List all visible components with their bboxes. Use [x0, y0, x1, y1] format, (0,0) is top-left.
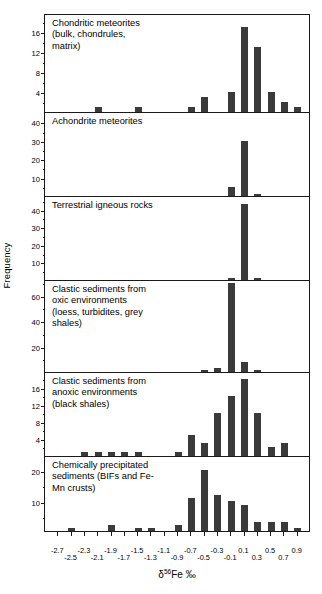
y-tick-major	[41, 423, 45, 424]
x-tick-label: -0.9	[171, 553, 184, 562]
y-tick-label: 30	[32, 137, 40, 146]
x-tick	[97, 532, 98, 536]
y-axis-title: Frequency	[0, 0, 14, 530]
x-tick	[124, 532, 125, 536]
histogram-bar	[214, 413, 221, 456]
panel-caption: Clastic sediments from anoxic environmen…	[52, 376, 146, 410]
y-tick-label: 20	[32, 343, 40, 352]
x-tick	[297, 532, 298, 536]
y-tick-major	[41, 472, 45, 473]
y-tick-major	[41, 389, 45, 390]
y-tick-major	[41, 246, 45, 247]
histogram-bar	[268, 447, 275, 456]
x-axis: -2.7-2.5-2.3-2.1-1.9-1.7-1.5-1.3-1.1-0.9…	[44, 532, 310, 572]
y-tick-label: 10	[32, 498, 40, 507]
y-tick-major	[41, 179, 45, 180]
panel-achondrite-meteorites: Achondrite meteorites10203040	[44, 112, 310, 196]
y-tick-label: 8	[36, 69, 40, 78]
x-tick-label: -1.3	[144, 553, 157, 562]
histogram-bar	[281, 443, 288, 456]
x-tick-label: 0.3	[252, 553, 262, 562]
x-tick-label: -2.7	[51, 546, 64, 555]
x-axis-title: δ56Fe ‰	[44, 568, 310, 580]
y-tick-label: 40	[32, 206, 40, 215]
x-tick	[177, 532, 178, 536]
histogram-bar	[228, 501, 235, 531]
y-tick-label: 20	[32, 468, 40, 477]
x-tick-label: 0.1	[238, 546, 248, 555]
x-tick	[270, 532, 271, 536]
y-tick-minor	[43, 133, 46, 134]
histogram-bar	[254, 47, 261, 112]
histogram-bar	[201, 470, 208, 531]
x-axis-title-element: Fe ‰	[171, 569, 195, 580]
histogram-bar	[241, 362, 248, 372]
histogram-bar	[148, 528, 155, 531]
histogram-bar	[254, 413, 261, 456]
y-tick-minor	[43, 335, 46, 336]
x-tick-label: -1.9	[104, 546, 117, 555]
y-tick-major	[41, 53, 45, 54]
y-tick-label: 16	[32, 384, 40, 393]
x-tick-label: 0.5	[265, 546, 275, 555]
x-tick-label: -1.5	[131, 546, 144, 555]
histogram-bar	[241, 27, 248, 112]
histogram-bar	[281, 522, 288, 531]
x-tick	[217, 532, 218, 536]
y-tick-minor	[43, 431, 46, 432]
histogram-bar	[228, 187, 235, 196]
y-tick-minor	[43, 169, 46, 170]
histogram-bar	[268, 92, 275, 112]
x-tick	[71, 532, 72, 536]
y-tick-minor	[43, 202, 46, 203]
histogram-bar	[108, 525, 115, 531]
panel-stack: Chondritic meteorites (bulk, chondrules,…	[44, 14, 310, 532]
x-tick	[230, 532, 231, 536]
y-tick-major	[41, 160, 45, 161]
panel-clastic-sediments-oxic: Clastic sediments from oxic environments…	[44, 280, 310, 372]
y-tick-major	[41, 93, 45, 94]
y-tick-minor	[43, 63, 46, 64]
panel-caption: Terrestrial igneous rocks	[52, 200, 153, 211]
y-tick-label: 4	[36, 89, 40, 98]
x-tick	[150, 532, 151, 536]
panel-caption: Chondritic meteorites (bulk, chondrules,…	[52, 18, 140, 52]
x-tick	[57, 532, 58, 536]
x-tick	[164, 532, 165, 536]
y-tick-minor	[43, 255, 46, 256]
histogram-bar	[68, 528, 75, 531]
x-tick-label: -1.7	[117, 553, 130, 562]
histogram-bar	[228, 396, 235, 456]
x-tick	[257, 532, 258, 536]
histogram-bar	[228, 92, 235, 112]
histogram-bar	[135, 528, 142, 531]
y-tick-major	[41, 211, 45, 212]
y-tick-minor	[43, 83, 46, 84]
histogram-bar	[201, 443, 208, 456]
histogram-bar	[241, 204, 248, 280]
y-tick-major	[41, 263, 45, 264]
y-tick-major	[41, 503, 45, 504]
histogram-bar	[175, 525, 182, 531]
y-tick-label: 40	[32, 318, 40, 327]
y-tick-minor	[43, 380, 46, 381]
histogram-bar	[214, 495, 221, 532]
x-tick	[137, 532, 138, 536]
histogram-bar	[294, 528, 301, 531]
x-tick	[111, 532, 112, 536]
x-tick	[190, 532, 191, 536]
histogram-bar	[268, 522, 275, 531]
y-tick-minor	[43, 284, 46, 285]
y-tick-minor	[43, 188, 46, 189]
y-tick-minor	[43, 309, 46, 310]
x-tick	[283, 532, 284, 536]
histogram-bar	[241, 505, 248, 531]
y-tick-label: 10	[32, 259, 40, 268]
y-axis-title-text: Frequency	[2, 242, 13, 288]
y-tick-minor	[43, 360, 46, 361]
y-tick-minor	[43, 23, 46, 24]
y-tick-major	[41, 33, 45, 34]
y-tick-minor	[43, 219, 46, 220]
y-tick-label: 4	[36, 435, 40, 444]
y-tick-major	[41, 123, 45, 124]
